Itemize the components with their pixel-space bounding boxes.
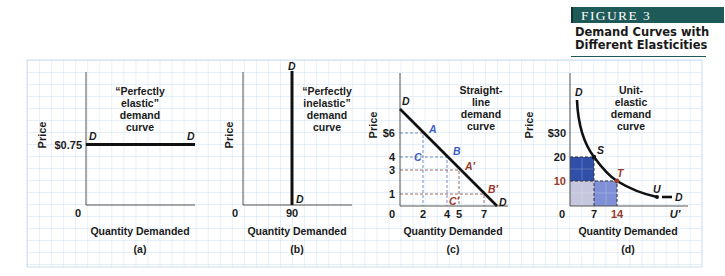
panel-c-y-tick-4: 4 bbox=[389, 151, 396, 163]
panel-b-annotation-line-3: demand bbox=[307, 109, 347, 121]
panel-c-y-tick-3: 3 bbox=[389, 164, 395, 176]
panel-c-x-tick-5: 5 bbox=[456, 208, 462, 220]
panel-c-annotation-line-4: curve bbox=[467, 120, 495, 132]
panel-c-point-c: C bbox=[414, 151, 422, 163]
panel-a-curve-label-right: D bbox=[187, 130, 195, 142]
panel-b-curve-label-bottom: D bbox=[296, 193, 304, 205]
panel-c-panel-label: (c) bbox=[447, 243, 460, 255]
panel-b-x-tick: 90 bbox=[286, 207, 298, 219]
panel-d-annotation-line-3: demand bbox=[611, 108, 651, 120]
panel-d-point-s-marker bbox=[592, 155, 596, 159]
panel-a-x-axis-label: Quantity Demanded bbox=[90, 225, 189, 237]
panel-d-point-t-marker bbox=[615, 179, 620, 184]
panel-d-y-tick-10: 10 bbox=[554, 175, 566, 187]
panel-d-origin-label: 0 bbox=[559, 208, 565, 220]
panel-a-y-axis-label: Price bbox=[36, 122, 48, 149]
panel-b-x-axis-label: Quantity Demanded bbox=[247, 225, 346, 237]
panel-d-x-tick-u-prime: U′ bbox=[670, 208, 682, 220]
panel-c-x-tick-7: 7 bbox=[481, 208, 487, 220]
panel-a-y-tick: $0.75 bbox=[54, 139, 82, 151]
panel-d-box-medium-blue bbox=[594, 181, 617, 206]
panel-a-panel-label: (a) bbox=[134, 243, 147, 255]
panel-c-point-b-prime: B′ bbox=[488, 183, 499, 195]
panel-c-curve-label-bottom: D bbox=[499, 196, 507, 208]
panel-d-annotation-line-2: elastic bbox=[615, 96, 648, 108]
panel-c-point-b: B bbox=[453, 145, 461, 157]
panel-c-x-tick-2: 2 bbox=[420, 208, 426, 220]
panel-a-annotation-line-1: “Perfectly bbox=[115, 85, 165, 97]
panel-c-curve-label-top: D bbox=[402, 95, 410, 107]
panel-d-curve-label-top: D bbox=[575, 86, 583, 98]
panel-c-y-axis-label: Price bbox=[367, 112, 379, 139]
panel-c-x-tick-4: 4 bbox=[444, 208, 451, 220]
panel-c-point-c-prime: C′ bbox=[449, 195, 460, 207]
panel-b-annotation-line-1: “Perfectly bbox=[302, 85, 352, 97]
panel-c-x-axis-label: Quantity Demanded bbox=[403, 225, 502, 237]
panel-d-x-tick-14: 14 bbox=[611, 208, 624, 220]
panel-d-x-tick-7: 7 bbox=[591, 208, 597, 220]
panel-d-point-s: S bbox=[597, 144, 604, 156]
panel-d-annotation-line-1: Unit- bbox=[619, 84, 643, 96]
panel-a-annotation-line-4: curve bbox=[126, 121, 154, 133]
panel-b-annotation-line-4: curve bbox=[313, 121, 341, 133]
panel-a-origin-label: 0 bbox=[75, 207, 81, 219]
panel-a-curve-label-left: D bbox=[89, 130, 97, 142]
panel-b-annotation-line-2: inelastic” bbox=[303, 97, 350, 109]
panel-d-y-tick-30: $30 bbox=[548, 127, 566, 139]
panel-c-origin-label: 0 bbox=[389, 208, 395, 220]
panel-d-x-axis-label: Quantity Demanded bbox=[578, 225, 677, 237]
panel-b-origin-label: 0 bbox=[232, 207, 238, 219]
panel-c-point-a-prime: A′ bbox=[464, 160, 476, 172]
panel-c-annotation-line-2: line bbox=[472, 96, 490, 108]
panel-b-panel-label: (b) bbox=[290, 243, 303, 255]
panel-d-curve-label-bottom: D bbox=[675, 191, 683, 203]
panel-b-curve-label-top: D bbox=[288, 60, 296, 72]
panel-c-annotation-line-3: demand bbox=[461, 108, 501, 120]
panel-d-point-u-marker bbox=[655, 195, 659, 199]
panel-c-y-tick-6: $6 bbox=[383, 127, 395, 139]
panel-d-panel-label: (d) bbox=[621, 243, 634, 255]
panel-d-y-axis-label: Price bbox=[523, 112, 535, 139]
panel-d-annotation-line-4: curve bbox=[617, 120, 645, 132]
panel-a-annotation-line-2: elastic” bbox=[121, 97, 159, 109]
panel-c-point-a: A bbox=[428, 123, 437, 135]
chart-canvas: Price $0.75 0 D D “Perfectly elastic” de… bbox=[0, 0, 725, 276]
panel-c-y-tick-1: 1 bbox=[389, 188, 395, 200]
panel-d-y-tick-20: 20 bbox=[554, 151, 566, 163]
panel-a-annotation-line-3: demand bbox=[120, 109, 160, 121]
panel-b-y-axis-label: Price bbox=[223, 122, 235, 149]
panel-d-point-u: U bbox=[653, 183, 661, 195]
panel-c-annotation-line-1: Straight- bbox=[459, 84, 503, 96]
